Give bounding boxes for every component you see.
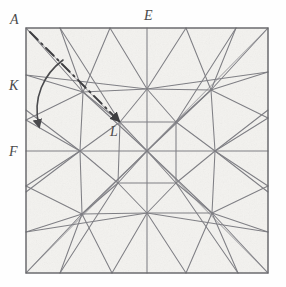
vertex-label-e: E [144,8,153,24]
crease-pattern-figure [0,0,286,287]
vertex-label-f: F [9,144,18,160]
vertex-label-k: K [9,78,18,94]
vertex-label-a: A [10,12,19,28]
vertex-label-l: L [110,124,118,140]
